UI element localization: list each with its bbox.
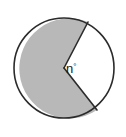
degree-symbol: ° [73,62,76,71]
figure-container: n° [0,0,126,137]
angle-variable: n [66,61,73,76]
circle-sector-diagram: n° [0,0,126,137]
